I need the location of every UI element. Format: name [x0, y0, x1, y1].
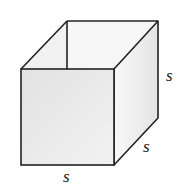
label-right-side: s: [166, 66, 173, 85]
label-front-bottom: s: [63, 167, 70, 186]
open-box-diagram: s s s: [0, 0, 180, 190]
label-right-bottom: s: [143, 137, 150, 156]
front-face: [21, 69, 114, 165]
